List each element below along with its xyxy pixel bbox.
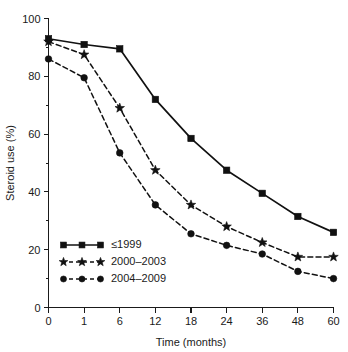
legend: ≤19992000–20032004–2009 [59, 238, 166, 284]
x-tick-label: 36 [256, 315, 268, 327]
series-3 [45, 56, 337, 282]
series-2 [44, 37, 339, 261]
x-tick-label: 60 [327, 315, 339, 327]
data-point-circle [259, 251, 266, 258]
data-point-circle [81, 74, 88, 81]
y-tick-label: 80 [28, 70, 40, 82]
data-point-square [81, 41, 87, 47]
data-point-star [79, 50, 89, 59]
legend-item[interactable]: 2004–2009 [60, 272, 166, 284]
legend-item[interactable]: ≤1999 [61, 238, 142, 250]
data-point-square [117, 46, 123, 52]
data-point-circle [97, 276, 103, 282]
y-axis-ticks: 020406080100 [22, 13, 48, 314]
data-point-star [151, 165, 161, 174]
x-tick-label: 12 [149, 315, 161, 327]
y-tick-label: 0 [34, 302, 40, 314]
axes [49, 19, 334, 308]
x-tick-label: 18 [185, 315, 197, 327]
data-point-star [96, 257, 105, 265]
x-tick-label: 48 [292, 315, 304, 327]
data-point-circle [152, 202, 159, 209]
data-point-square [295, 213, 301, 219]
data-point-star [257, 237, 267, 246]
data-point-square [259, 190, 265, 196]
x-axis-ticks: 016121824364860 [45, 308, 339, 327]
data-point-circle [223, 242, 230, 249]
data-point-circle [330, 275, 337, 282]
series-line [49, 42, 334, 257]
data-point-square [188, 135, 194, 141]
legend-item-label: 2000–2003 [111, 255, 166, 267]
data-point-square [98, 242, 104, 248]
legend-item-label: 2004–2009 [111, 272, 166, 284]
data-point-circle [188, 231, 195, 238]
x-tick-label: 24 [221, 315, 233, 327]
legend-item[interactable]: 2000–2003 [59, 255, 166, 267]
x-tick-label: 6 [117, 315, 123, 327]
data-point-square [61, 242, 67, 248]
chart-canvas: 020406080100 016121824364860 Steroid use… [0, 0, 348, 352]
y-tick-label: 20 [28, 244, 40, 256]
data-point-star [293, 252, 303, 261]
data-point-circle [45, 56, 52, 63]
data-point-star [78, 257, 87, 265]
data-point-circle [79, 276, 85, 282]
data-point-star [222, 222, 232, 231]
data-point-star [59, 257, 68, 265]
data-point-square [330, 229, 336, 235]
data-point-square [79, 242, 85, 248]
steroid-use-line-chart: 020406080100 016121824364860 Steroid use… [0, 0, 348, 352]
y-tick-label: 60 [28, 128, 40, 140]
x-tick-label: 1 [81, 315, 87, 327]
data-point-circle [295, 268, 302, 275]
legend-item-label: ≤1999 [111, 238, 142, 250]
data-point-square [152, 96, 158, 102]
x-axis-title: Time (months) [156, 336, 227, 348]
data-point-square [223, 167, 229, 173]
data-point-star [115, 103, 125, 112]
y-tick-label: 100 [22, 13, 40, 25]
data-point-circle [60, 276, 66, 282]
y-axis-title: Steroid use (%) [4, 125, 16, 201]
data-point-star [329, 252, 339, 261]
x-tick-label: 0 [45, 315, 51, 327]
data-point-circle [116, 150, 123, 157]
y-tick-label: 40 [28, 186, 40, 198]
